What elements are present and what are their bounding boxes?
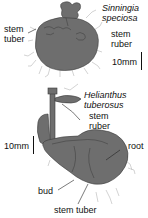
species-name-helianthus-1: Helianthus [84, 90, 127, 100]
label-stem-tuber-top-2: tuber [4, 34, 25, 44]
label-stem-ruber-top-1: stem [111, 29, 131, 39]
label-stem-tuber-top-1: stem [4, 24, 24, 34]
scale-bar-top [141, 52, 142, 70]
species-name-helianthus-2: tuberosus [84, 100, 124, 110]
label-root: root [128, 141, 144, 151]
scale-label-bottom: 10mm [4, 141, 29, 151]
species-name-sinningia-1: Sinningia [102, 3, 139, 13]
species-name-sinningia-2: speciosa [102, 13, 138, 23]
scale-label-top: 10mm [112, 57, 137, 67]
label-stem-ruber-top-2: ruber [111, 39, 132, 49]
label-bud: bud [38, 186, 53, 196]
sinningia-tuber [24, 2, 102, 77]
scale-bar-bottom [33, 136, 34, 154]
label-stem-tuber-bottom: stem tuber [54, 205, 97, 215]
label-stem-ruber-bottom-2: ruber [89, 121, 110, 131]
label-stem-ruber-bottom-1: stem [89, 111, 109, 121]
